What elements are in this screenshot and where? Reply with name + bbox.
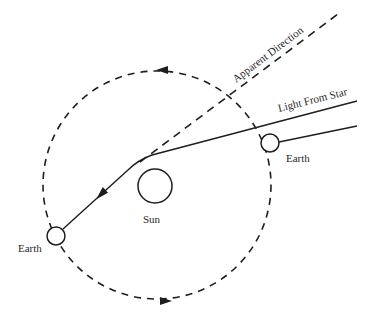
light-from-star-label: Light From Star: [277, 85, 349, 114]
earth-right-circle: [261, 134, 279, 152]
parallel-light-ray: [279, 126, 357, 142]
orbit-arrow-top-icon: [156, 66, 168, 74]
light-ray: [63, 101, 357, 229]
sun-label: Sun: [143, 213, 161, 225]
aberration-diagram: Apparent Direction Light From Star Earth…: [0, 0, 375, 319]
earth-right-label: Earth: [286, 152, 310, 164]
earth-left-circle: [47, 227, 65, 245]
sun-circle: [138, 169, 172, 203]
apparent-direction-label: Apparent Direction: [230, 23, 306, 84]
apparent-direction-line: [140, 14, 338, 162]
earth-left-label: Earth: [18, 242, 42, 254]
light-ray-arrow-icon: [96, 187, 108, 199]
